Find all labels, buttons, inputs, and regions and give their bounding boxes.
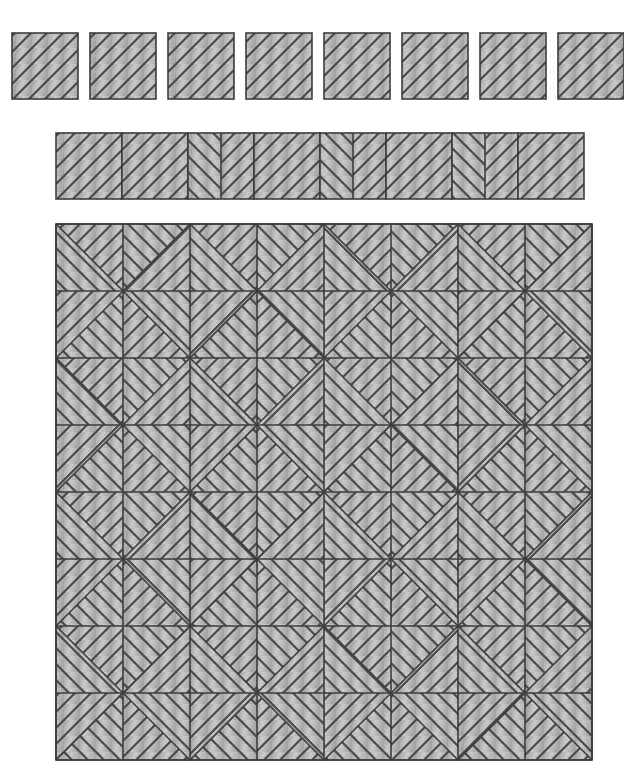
tile-half-right — [221, 133, 254, 199]
figure-canvas — [0, 0, 624, 783]
grid-tile-r6-c1 — [123, 626, 190, 693]
grid-tile-r3-c6 — [458, 425, 525, 492]
grid-tile-r1-c3 — [257, 291, 324, 358]
grid-tile-r3-c2 — [190, 425, 257, 492]
grid-tile-r2-c5 — [391, 358, 458, 425]
grid-tile-r2-c0 — [56, 358, 123, 425]
grid-tile-r5-c3 — [257, 559, 324, 626]
tile-hatch-area — [56, 133, 122, 199]
grid-tile-r2-c6 — [458, 358, 525, 425]
grid-tile-r7-c1 — [123, 693, 190, 760]
grid-tile-r0-c6 — [458, 224, 525, 291]
tile-hatch-fill — [168, 33, 234, 99]
grid-tile-r6-c6 — [458, 626, 525, 693]
grid-tile-r2-c2 — [190, 358, 257, 425]
grid-tile-r5-c2 — [190, 559, 257, 626]
tile-hatch-fill — [254, 133, 320, 199]
grid-tile-r3-c1 — [123, 425, 190, 492]
grid-tile-r0-c3 — [257, 224, 324, 291]
tile-hatch-area — [90, 33, 156, 99]
tile-hatch-area — [254, 133, 320, 199]
grid-tile-r2-c7 — [525, 358, 592, 425]
grid-tile-r2-c1 — [123, 358, 190, 425]
tile-hatch-area — [12, 33, 78, 99]
tile-hatch-fill — [12, 33, 78, 99]
grid-tile-r1-c1 — [123, 291, 190, 358]
grid-tile-r5-c6 — [458, 559, 525, 626]
strip-tile-3 — [254, 133, 320, 199]
tile-hatch-fill — [246, 33, 312, 99]
grid-tile-r4-c2 — [190, 492, 257, 559]
grid-tile-r0-c5 — [391, 224, 458, 291]
grid-tile-r5-c7 — [525, 559, 592, 626]
strip-tile-5 — [386, 133, 452, 199]
isolated-tile-4 — [324, 33, 390, 99]
grid-tile-r3-c5 — [391, 425, 458, 492]
grid-tile-r1-c0 — [56, 291, 123, 358]
tile-half-right — [353, 133, 386, 199]
grid-tile-r1-c6 — [458, 291, 525, 358]
isolated-tile-5 — [402, 33, 468, 99]
grid-tile-r2-c3 — [257, 358, 324, 425]
tile-hatch-area — [324, 33, 390, 99]
isolated-tile-0 — [12, 33, 78, 99]
grid-tile-r7-c0 — [56, 693, 123, 760]
grid-tile-r6-c2 — [190, 626, 257, 693]
isolated-tile-3 — [246, 33, 312, 99]
grid-tile-r4-c1 — [123, 492, 190, 559]
strip-tile-7 — [518, 133, 584, 199]
grid-tile-r6-c5 — [391, 626, 458, 693]
grid-tile-r0-c7 — [525, 224, 592, 291]
tile-half-right — [485, 133, 518, 199]
tile-hatch-fill — [90, 33, 156, 99]
grid-tile-r1-c2 — [190, 291, 257, 358]
main-tile-grid — [56, 224, 592, 760]
grid-tile-r6-c7 — [525, 626, 592, 693]
grid-tile-r0-c0 — [56, 224, 123, 291]
strip-tile-4 — [320, 133, 386, 199]
grid-tile-r0-c4 — [324, 224, 391, 291]
grid-tile-r4-c5 — [391, 492, 458, 559]
grid-tile-r6-c4 — [324, 626, 391, 693]
grid-tile-r7-c7 — [525, 693, 592, 760]
tile-half-left — [188, 133, 221, 199]
grid-tile-r5-c5 — [391, 559, 458, 626]
grid-tile-r1-c4 — [324, 291, 391, 358]
isolated-tile-6 — [480, 33, 546, 99]
isolated-tile-7 — [558, 33, 624, 99]
tile-half-left — [452, 133, 485, 199]
tile-hatch-fill — [402, 33, 468, 99]
grid-tile-r7-c2 — [190, 693, 257, 760]
tile-hatch-fill — [480, 33, 546, 99]
grid-tile-r5-c1 — [123, 559, 190, 626]
tile-half-left — [320, 133, 353, 199]
grid-tile-r4-c0 — [56, 492, 123, 559]
grid-tile-r5-c4 — [324, 559, 391, 626]
tile-hatch-area — [558, 33, 624, 99]
isolated-tile-1 — [90, 33, 156, 99]
grid-tile-r2-c4 — [324, 358, 391, 425]
grid-tile-r3-c0 — [56, 425, 123, 492]
grid-tile-r3-c7 — [525, 425, 592, 492]
grid-tile-r4-c3 — [257, 492, 324, 559]
grid-tile-r6-c3 — [257, 626, 324, 693]
tile-hatch-area — [480, 33, 546, 99]
strip-tile-6 — [452, 133, 518, 199]
grid-tile-r5-c0 — [56, 559, 123, 626]
tile-hatch-area — [122, 133, 188, 199]
grid-tile-r0-c2 — [190, 224, 257, 291]
grid-tile-r7-c6 — [458, 693, 525, 760]
grid-tile-r0-c1 — [123, 224, 190, 291]
grid-tile-r1-c7 — [525, 291, 592, 358]
tile-hatch-area — [168, 33, 234, 99]
isolated-tile-row — [12, 33, 624, 99]
tile-hatch-fill — [518, 133, 584, 199]
tile-hatch-fill — [324, 33, 390, 99]
grid-tile-r4-c4 — [324, 492, 391, 559]
tile-hatch-fill — [122, 133, 188, 199]
tile-hatch-area — [402, 33, 468, 99]
grid-tile-r3-c3 — [257, 425, 324, 492]
grid-tile-r7-c4 — [324, 693, 391, 760]
grid-tile-r3-c4 — [324, 425, 391, 492]
tile-hatch-fill — [386, 133, 452, 199]
